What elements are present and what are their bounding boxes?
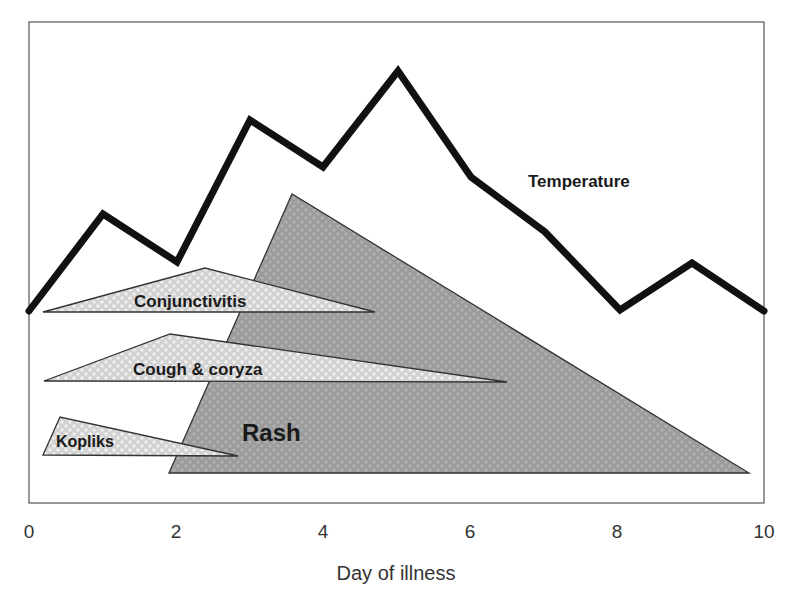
x-tick-label: 2 (171, 521, 182, 542)
x-tick-label: 6 (465, 521, 476, 542)
rash-label: Rash (242, 419, 301, 446)
kopliks-label: Kopliks (56, 433, 114, 450)
x-tick-label: 10 (753, 521, 774, 542)
x-tick-label: 0 (24, 521, 35, 542)
x-axis-title: Day of illness (337, 562, 456, 584)
x-tick-label: 8 (612, 521, 623, 542)
chart: Temperature Conjunctivitis Cough & coryz… (0, 0, 792, 604)
cough-coryza-label: Cough & coryza (133, 360, 263, 379)
conjunctivitis-label: Conjunctivitis (134, 292, 246, 311)
x-tick-label: 4 (318, 521, 329, 542)
temperature-label: Temperature (528, 172, 630, 191)
